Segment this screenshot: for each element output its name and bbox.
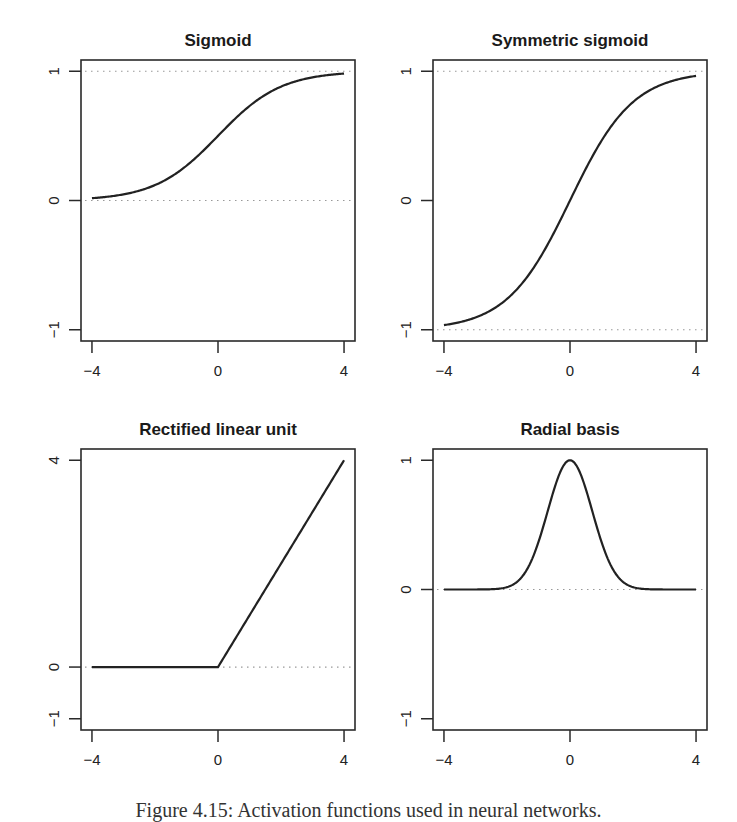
x-tick-label: −4 <box>435 362 452 379</box>
y-tick-label: 1 <box>45 67 62 75</box>
panel-rectified-linear-unit: Rectified linear unit−404−104 <box>45 420 355 768</box>
y-tick-label: 0 <box>397 585 414 593</box>
y-tick-label: −1 <box>397 321 414 338</box>
panel-title: Sigmoid <box>184 31 251 50</box>
x-tick-label: 0 <box>214 362 222 379</box>
x-tick-label: 4 <box>692 362 700 379</box>
x-tick-label: 4 <box>692 751 700 768</box>
panel-sigmoid: Sigmoid−404−101 <box>45 31 355 379</box>
x-tick-label: 0 <box>566 362 574 379</box>
x-tick-label: −4 <box>83 751 100 768</box>
y-tick-label: −1 <box>45 710 62 727</box>
y-tick-label: 1 <box>397 456 414 464</box>
x-tick-label: −4 <box>83 362 100 379</box>
function-curve <box>92 74 344 199</box>
x-tick-label: 0 <box>566 751 574 768</box>
figure-caption: Figure 4.15: Activation functions used i… <box>0 799 737 822</box>
x-tick-label: 4 <box>340 362 348 379</box>
y-tick-label: −1 <box>397 710 414 727</box>
x-tick-label: −4 <box>435 751 452 768</box>
function-curve <box>444 76 696 325</box>
panel-title: Symmetric sigmoid <box>492 31 649 50</box>
plot-frame <box>81 449 355 730</box>
y-tick-label: 4 <box>45 456 62 464</box>
y-tick-label: −1 <box>45 321 62 338</box>
function-curve <box>92 460 344 667</box>
x-tick-label: 0 <box>214 751 222 768</box>
function-curve <box>444 460 696 589</box>
panel-symmetric-sigmoid: Symmetric sigmoid−404−101 <box>397 31 707 379</box>
panel-radial-basis: Radial basis−404−101 <box>397 420 707 768</box>
panel-title: Radial basis <box>520 420 619 439</box>
y-tick-label: 0 <box>397 196 414 204</box>
x-tick-label: 4 <box>340 751 348 768</box>
y-tick-label: 0 <box>45 196 62 204</box>
y-tick-label: 0 <box>45 663 62 671</box>
y-tick-label: 1 <box>397 67 414 75</box>
panel-title: Rectified linear unit <box>139 420 297 439</box>
